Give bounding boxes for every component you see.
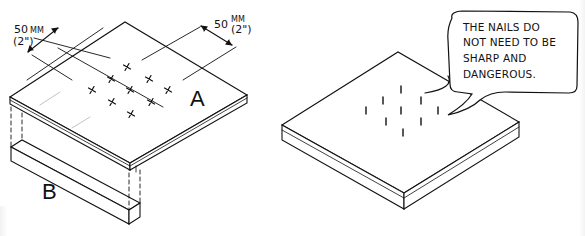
board-label-a: A xyxy=(190,86,205,111)
page-edge-shadow xyxy=(579,0,585,236)
bubble-line-4: DANGEROUS. xyxy=(463,68,536,80)
bubble-line-3: SHARP AND xyxy=(463,52,527,64)
bubble-line-2: NOT NEED TO BE xyxy=(463,36,556,48)
board-a xyxy=(10,22,247,172)
dimension-left-unit: MM xyxy=(30,26,44,35)
page-corner-shadow xyxy=(0,206,8,236)
bubble-line-1: THE NAILS DO xyxy=(462,21,540,33)
dimension-left-imperial: (2") xyxy=(13,35,34,48)
dimension-right-imperial: (2") xyxy=(231,23,252,36)
left-panel: A B 50 MM (2") 50 MM (2") xyxy=(10,15,252,224)
right-panel: THE NAILS DO NOT NEED TO BE SHARP AND DA… xyxy=(282,11,578,209)
batten-label-b: B xyxy=(42,179,57,204)
dimension-right-value: 50 xyxy=(214,18,228,31)
diagram-canvas: A B 50 MM (2") 50 MM (2") xyxy=(0,0,585,236)
